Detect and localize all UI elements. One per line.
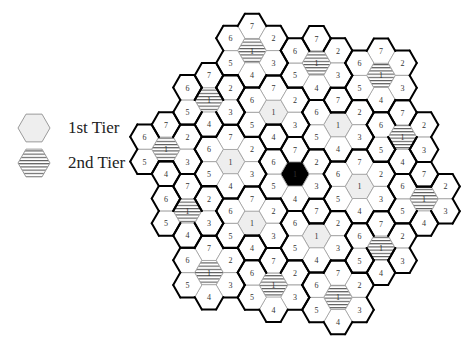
hex-cell-label: 2 bbox=[229, 84, 233, 93]
hex-cell-label: 3 bbox=[336, 71, 340, 80]
legend-label-tier2: 2nd Tier bbox=[68, 153, 125, 173]
hex-cell-label: 6 bbox=[315, 281, 319, 290]
hex-cell-label: 3 bbox=[207, 219, 211, 228]
hex-cell-label: 3 bbox=[229, 108, 233, 117]
hex-cell-label: 2 bbox=[401, 232, 405, 241]
hex-cell-label: 7 bbox=[336, 96, 340, 105]
hex-cell-label: 4 bbox=[379, 96, 383, 105]
hex-cell-label: 6 bbox=[379, 121, 383, 130]
hex-cell-label: 3 bbox=[358, 133, 362, 142]
hex-cell-label: 5 bbox=[336, 195, 340, 204]
hex-cell-label: 2 bbox=[336, 47, 340, 56]
hex-cell-label: 6 bbox=[315, 108, 319, 117]
hex-cell-label: 5 bbox=[164, 219, 168, 228]
hex-cell-label: 7 bbox=[229, 133, 233, 142]
hex-cell-label: 6 bbox=[250, 269, 254, 278]
hex-cell-label: 7 bbox=[315, 35, 319, 44]
hex-cell-label: 7 bbox=[379, 47, 383, 56]
hex-cell-label: 2 bbox=[272, 34, 276, 43]
hex-cell-label: 4 bbox=[293, 195, 297, 204]
hex-cell-label: 5 bbox=[250, 293, 254, 302]
hex-cell-label: 7 bbox=[422, 170, 426, 179]
hex-cell-label: 6 bbox=[293, 47, 297, 56]
hex-cell-label: 1 bbox=[358, 182, 362, 191]
hex-cell-label: 6 bbox=[401, 182, 405, 191]
hex-cell-label: 7 bbox=[164, 121, 168, 130]
hex-cell-label: 5 bbox=[293, 244, 297, 253]
hex-cell-label: 7 bbox=[379, 220, 383, 229]
hex-cell-label: 1 bbox=[422, 195, 426, 204]
hex-cell-label: 3 bbox=[272, 232, 276, 241]
hex-cell-label: 3 bbox=[293, 121, 297, 130]
hex-cell-label: 7 bbox=[207, 71, 211, 80]
hex-cell-label: 1 bbox=[207, 96, 211, 105]
hex-cell-label: 4 bbox=[358, 207, 362, 216]
hex-cell-label: 3 bbox=[336, 244, 340, 253]
hex-cell-label: 4 bbox=[422, 219, 426, 228]
hex-cell-label: 5 bbox=[315, 306, 319, 315]
hex-cell-label: 4 bbox=[315, 84, 319, 93]
hex-cell-label: 3 bbox=[444, 207, 448, 216]
hex-cell-label: 1 bbox=[379, 71, 383, 80]
hex-cell-label: 4 bbox=[164, 170, 168, 179]
hex-cell-label: 2 bbox=[401, 59, 405, 68]
hex-cell-label: 1 bbox=[336, 121, 340, 130]
hex-cell-label: 7 bbox=[272, 84, 276, 93]
hex-cell-label: 4 bbox=[207, 120, 211, 129]
hex-cell-label: 7 bbox=[186, 182, 190, 191]
hex-cell-label: 1 bbox=[250, 47, 254, 56]
hex-cell-label: 3 bbox=[315, 182, 319, 191]
hex-cell-label: 7 bbox=[207, 244, 211, 253]
hex-cell-label: 3 bbox=[186, 158, 190, 167]
hex-cell-label: 1 bbox=[336, 293, 340, 302]
hex-cell-label: 7 bbox=[250, 22, 254, 31]
hex-cell-label: 6 bbox=[358, 232, 362, 241]
hex-cell-label: 2 bbox=[186, 133, 190, 142]
hex-cell-label: 2 bbox=[207, 195, 211, 204]
hex-cell-label: 6 bbox=[229, 207, 233, 216]
hex-cell-label: 6 bbox=[164, 195, 168, 204]
hex-cell-label: 3 bbox=[272, 59, 276, 68]
hex-cell-label: 4 bbox=[401, 158, 405, 167]
hex-cell-label: 3 bbox=[250, 170, 254, 179]
hex-cell-label: 4 bbox=[379, 269, 383, 278]
hex-cell-label: 7 bbox=[272, 257, 276, 266]
hex-cell-label: 4 bbox=[250, 244, 254, 253]
hex-cell-label: 2 bbox=[358, 108, 362, 117]
hex-cell-label: 5 bbox=[272, 182, 276, 191]
legend bbox=[18, 114, 50, 177]
hex-cell-label: 4 bbox=[336, 145, 340, 154]
hex-cell-label: 2 bbox=[293, 269, 297, 278]
hex-cell-label: 3 bbox=[401, 257, 405, 266]
hex-cell-label: 6 bbox=[293, 219, 297, 228]
hex-cell-label: 1 bbox=[315, 232, 319, 241]
hex-cell-label: 1 bbox=[207, 269, 211, 278]
hex-cell-label: 6 bbox=[207, 145, 211, 154]
hex-cell-label: 1 bbox=[272, 281, 276, 290]
hex-cell-label: 5 bbox=[315, 133, 319, 142]
hex-cell-label: 4 bbox=[315, 256, 319, 265]
hex-cell-label: 6 bbox=[358, 59, 362, 68]
hex-cell-label: 7 bbox=[336, 269, 340, 278]
hex-cell-label: 1 bbox=[293, 170, 297, 179]
hex-cell-label: 3 bbox=[293, 293, 297, 302]
hex-cell-label: 7 bbox=[293, 146, 297, 155]
hex-cell-label: 4 bbox=[272, 133, 276, 142]
hex-cell-label: 5 bbox=[207, 170, 211, 179]
hex-cell-label: 1 bbox=[186, 207, 190, 216]
hex-cell-label: 2 bbox=[272, 207, 276, 216]
tier1-swatch-hex-icon bbox=[18, 114, 50, 142]
hex-cell-label: 4 bbox=[207, 293, 211, 302]
hex-cell-label: 7 bbox=[401, 109, 405, 118]
hex-cell-label: 1 bbox=[315, 59, 319, 68]
hex-cell-label: 4 bbox=[186, 231, 190, 240]
hex-cell-label: 5 bbox=[229, 59, 233, 68]
hex-cell-label: 5 bbox=[229, 232, 233, 241]
hex-cell-label: 6 bbox=[336, 170, 340, 179]
hex-cell-label: 6 bbox=[272, 158, 276, 167]
hex-cell-label: 6 bbox=[229, 34, 233, 43]
hex-cell-label: 3 bbox=[422, 146, 426, 155]
hex-cell-label: 5 bbox=[358, 257, 362, 266]
hex-cell-label: 3 bbox=[358, 306, 362, 315]
hex-cell-label: 5 bbox=[358, 84, 362, 93]
